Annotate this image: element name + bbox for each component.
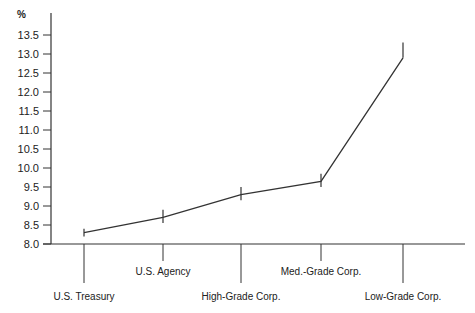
y-tick-label: 9.5 xyxy=(24,181,39,193)
yield-line-chart: % 8.08.59.09.510.010.511.011.512.012.513… xyxy=(0,0,475,313)
y-tick-label: 11.0 xyxy=(18,124,39,136)
x-category-label: Med.-Grade Corp. xyxy=(281,266,362,277)
x-category-label: U.S. Agency xyxy=(135,266,190,277)
x-category-label: High-Grade Corp. xyxy=(202,291,281,302)
x-category-label: U.S. Treasury xyxy=(53,291,114,302)
yield-line xyxy=(84,58,403,233)
y-axis: 8.08.59.09.510.010.511.011.512.012.513.0… xyxy=(18,13,51,250)
y-tick-label: 13.5 xyxy=(18,29,39,41)
y-tick-label: 9.0 xyxy=(24,200,39,212)
x-category-label: Low-Grade Corp. xyxy=(365,291,442,302)
y-axis-unit-label: % xyxy=(17,9,26,20)
y-tick-label: 10.0 xyxy=(18,162,39,174)
y-tick-label: 11.5 xyxy=(18,105,39,117)
y-tick-label: 13.0 xyxy=(18,48,39,60)
x-axis: U.S. TreasuryU.S. AgencyHigh-Grade Corp.… xyxy=(43,244,465,302)
y-tick-label: 12.0 xyxy=(18,86,39,98)
data-series xyxy=(84,43,403,237)
y-tick-label: 10.5 xyxy=(18,143,39,155)
y-tick-label: 8.5 xyxy=(24,219,39,231)
y-tick-label: 12.5 xyxy=(18,67,39,79)
y-tick-label: 8.0 xyxy=(24,238,39,250)
